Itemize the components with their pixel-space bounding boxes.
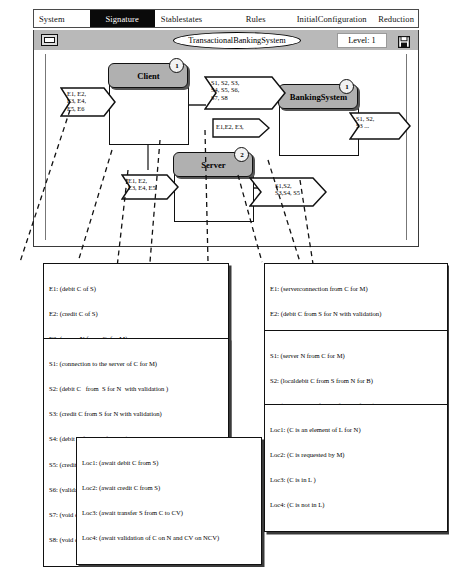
signal-chevron-bank-out[interactable]: S1, S2, S3 ... (349, 112, 411, 140)
legend-line: S2: (debit C from S for N with validatio… (49, 385, 223, 393)
legend-line: S1: (connection to the server of C for M… (49, 360, 223, 368)
legend-line: S3: (credit C from S for N with validati… (49, 410, 223, 418)
legend-line: E2: (credit C of S) (49, 310, 223, 318)
signal-chevron-bank-out-label: S1, S2, S3 ... (349, 112, 411, 130)
legend-line: E1: (serverconnection from C for M) (270, 285, 442, 293)
agent-badge-server: 2 (234, 147, 249, 162)
legend-line: E1: (debit C of S) (49, 285, 223, 293)
agent-header-client: Client 1 (108, 63, 188, 88)
level-indicator: Level: 1 (337, 33, 387, 48)
agent-box-server[interactable]: Server 2 (174, 160, 254, 222)
signal-chevron-bank-in[interactable]: E1,E2, E3, (212, 118, 270, 138)
legend-line: Loc3: (await transfer S from C to CV) (82, 509, 256, 517)
signal-chevron-bank-in-label: E1,E2, E3, (212, 118, 270, 130)
agent-badge-bankingsystem: 1 (339, 79, 354, 94)
signal-chevron-client-out-label: S1, S2, S3, S4, S5, S6, S7, S8 (204, 76, 286, 101)
menu-item-signature[interactable]: Signature (90, 10, 155, 27)
signal-chevron-client-out[interactable]: S1, S2, S3, S4, S5, S6, S7, S8 (204, 76, 286, 110)
legend-line: Loc1: (await debit C from S) (82, 459, 256, 467)
signal-chevron-server-in[interactable]: E1, E2, E3, E4, E5 (121, 174, 179, 200)
signal-chevron-server-out-label: S1,S2, S3,S4, S5 (249, 177, 327, 197)
diagram-canvas[interactable]: Client 1 Server 2 BankingSystem 1 E1, E2… (33, 50, 419, 247)
agent-box-client[interactable]: Client 1 (109, 71, 189, 145)
legend-line: E2: (debit C from S for N with validatio… (270, 310, 442, 318)
menu-item-stablestates[interactable]: Stablestates (155, 10, 222, 27)
legend-line: Loc1: (C is an element of L for N) (270, 426, 442, 434)
legend-line: S2: (localdebit C from S from N for B) (270, 377, 442, 385)
signal-chevron-server-out[interactable]: S1,S2, S3,S4, S5 (249, 177, 327, 207)
legend-line: Loc2: (C is requested by M) (270, 451, 442, 459)
menu-item-initialconfiguration[interactable]: InitialConfiguration (289, 10, 374, 27)
diagram-title-bar: TransactionalBankingSystem Level: 1 (33, 30, 419, 51)
legend-line: Loc4: (await validation of C on N and CV… (82, 534, 256, 542)
signal-chevron-client-in[interactable]: E1, E2, E3, E4, E5, E6 (60, 87, 116, 117)
menu-bar: System Signature Stablestates Rules Init… (33, 9, 419, 28)
page-title: TransactionalBankingSystem (173, 32, 301, 49)
agent-header-server: Server 2 (173, 152, 253, 177)
signal-chevron-client-in-label: E1, E2, E3, E4, E5, E6 (60, 87, 116, 112)
window-restore-icon[interactable] (41, 34, 58, 46)
legend-line: S1: (server N from C for M) (270, 352, 442, 360)
menu-item-system[interactable]: System (34, 10, 90, 27)
menu-item-reduction[interactable]: Reduction (374, 10, 418, 27)
legend-locations-client: Loc1: (await debit C from S) Loc2: (awai… (76, 437, 262, 565)
agent-label-server: Server (201, 160, 225, 170)
legend-line: Loc2: (await credit C from S) (82, 484, 256, 492)
agent-badge-client: 1 (169, 58, 184, 73)
agent-label-bankingsystem: BankingSystem (290, 92, 347, 102)
menu-item-rules[interactable]: Rules (222, 10, 289, 27)
legend-line: Loc3: (C is in L ) (270, 476, 442, 484)
legend-line: Loc4: (C is not in L) (270, 501, 442, 509)
agent-header-bankingsystem: BankingSystem 1 (278, 84, 358, 109)
save-disk-icon[interactable] (398, 34, 410, 46)
agent-box-bankingsystem[interactable]: BankingSystem 1 (279, 92, 359, 156)
agent-label-client: Client (137, 71, 159, 81)
signal-chevron-server-in-label: E1, E2, E3, E4, E5 (121, 174, 179, 192)
legend-locations-bankingsystem: Loc1: (C is an element of L for N) Loc2:… (264, 404, 448, 532)
